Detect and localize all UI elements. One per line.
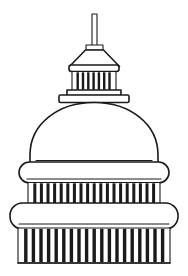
lower-column-gap [138, 229, 141, 262]
lower-column-gap [24, 229, 27, 262]
lower-column-gap [153, 229, 156, 262]
lower-column-gap [85, 229, 88, 262]
lower-column-gap [146, 229, 149, 262]
lower-column-gap [47, 229, 50, 262]
lantern-plinth-group [59, 90, 129, 103]
lower-cornice-band [10, 203, 178, 229]
capitol-dome-illustration: Line drawing of the United States Capito… [0, 0, 188, 276]
lantern-column-gap [87, 72, 89, 89]
lower-column-gap [131, 229, 134, 262]
lower-column-gap [108, 229, 111, 262]
tholos-conical-roof [70, 50, 120, 67]
dome-shell [30, 103, 158, 168]
lantern-column-gap [108, 72, 110, 89]
lantern-colonnade-group [72, 72, 116, 91]
lantern-column-gap [82, 72, 84, 89]
flagpole-group [86, 14, 103, 50]
flagpole-spire [92, 14, 97, 46]
lower-column-gap [55, 229, 58, 262]
lantern-column-gap [92, 72, 94, 89]
lantern-column-gap [98, 72, 100, 89]
lower-column-gap [123, 229, 126, 262]
lower-column-gap [39, 229, 42, 262]
lower-column-gap [32, 229, 35, 262]
lower-column-gap [62, 229, 65, 262]
lower-colonnade-group [18, 228, 170, 263]
lantern-column-gap [103, 72, 105, 89]
lower-column-gap [115, 229, 118, 262]
tholos-roof-group [70, 50, 120, 67]
dome-group [30, 103, 158, 168]
lower-column-gap [161, 229, 164, 262]
lantern-entablature [69, 65, 119, 72]
lantern-plinth-lower [59, 95, 129, 103]
lower-cornice-group [10, 203, 178, 229]
lower-column-gap [93, 229, 96, 262]
lower-column-gap [70, 229, 73, 262]
lower-column-gap [100, 229, 103, 262]
lower-column-gap [77, 229, 80, 262]
upper-cornice-group [19, 162, 169, 183]
upper-cornice-band [19, 162, 169, 183]
capitol-dome-drawing [0, 0, 188, 276]
lantern-entablature-group [69, 65, 119, 72]
lantern-column-gap [77, 72, 79, 89]
